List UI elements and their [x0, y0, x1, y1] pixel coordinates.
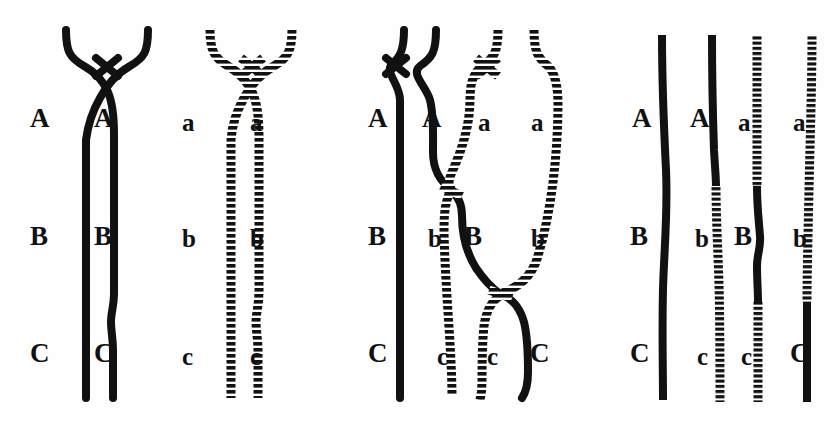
chromatid-p4-1 — [662, 35, 667, 400]
allele-label-c: c — [697, 344, 708, 369]
allele-label-A: A — [632, 105, 652, 132]
allele-label-C: C — [30, 340, 50, 367]
allele-label-c: c — [487, 344, 498, 369]
allele-label-B: B — [368, 223, 386, 250]
allele-label-A: A — [690, 105, 710, 132]
allele-label-B: B — [30, 223, 48, 250]
allele-label-b: b — [250, 226, 264, 251]
allele-label-C: C — [368, 340, 388, 367]
allele-label-C: C — [530, 340, 550, 367]
allele-label-C: C — [790, 340, 810, 367]
allele-label-a: a — [250, 110, 263, 135]
allele-label-c: c — [437, 344, 448, 369]
chromatid-p4-4-hatched-ab — [807, 35, 812, 302]
allele-label-b: b — [428, 226, 442, 251]
chromatid-p4-3-solid-B — [757, 186, 760, 302]
allele-label-a: a — [738, 110, 751, 135]
allele-label-B: B — [630, 223, 648, 250]
allele-label-B: B — [464, 223, 482, 250]
allele-label-C: C — [94, 340, 114, 367]
allele-label-B: B — [734, 223, 752, 250]
allele-label-a: a — [531, 110, 544, 135]
allele-label-B: B — [94, 223, 112, 250]
crossing-over-figure: AABBCCaabbccAAaaBbBbCccCAAaaBbBbCccC — [0, 0, 833, 426]
allele-label-b: b — [531, 226, 545, 251]
chromatid-p4-2-solid-A — [712, 35, 716, 186]
allele-label-A: A — [422, 105, 442, 132]
allele-label-a: a — [478, 110, 491, 135]
allele-label-b: b — [695, 226, 709, 251]
allele-label-c: c — [741, 344, 752, 369]
allele-label-C: C — [630, 340, 650, 367]
allele-label-A: A — [30, 105, 50, 132]
allele-label-A: A — [94, 105, 114, 132]
allele-label-a: a — [182, 110, 195, 135]
allele-label-c: c — [250, 344, 261, 369]
chromatid-p4-2-hatched-bc — [716, 186, 720, 402]
allele-label-b: b — [182, 226, 196, 251]
allele-label-c: c — [182, 344, 193, 369]
allele-label-b: b — [793, 226, 807, 251]
allele-label-A: A — [368, 105, 388, 132]
allele-label-a: a — [793, 110, 806, 135]
